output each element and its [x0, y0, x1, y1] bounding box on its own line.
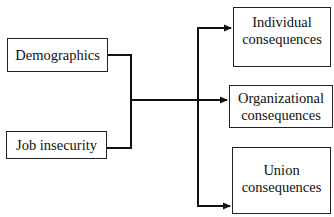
- organizational-label-line2: consequences: [238, 107, 324, 124]
- union-label-line1: Union: [242, 162, 322, 179]
- individual-label-line2: consequences: [242, 31, 322, 48]
- demographics-label: Demographics: [15, 47, 100, 64]
- job-insecurity-box: Job insecurity: [6, 131, 107, 159]
- union-label-line2: consequences: [242, 179, 322, 196]
- individual-label-line1: Individual: [242, 14, 322, 31]
- organizational-consequences-box: Organizational consequences: [229, 85, 333, 128]
- job-insecurity-label: Job insecurity: [16, 137, 97, 154]
- union-consequences-box: Union consequences: [232, 147, 331, 214]
- individual-consequences-box: Individual consequences: [233, 7, 331, 67]
- demographics-connector: [107, 55, 131, 148]
- organizational-label-line1: Organizational: [238, 90, 324, 107]
- demographics-box: Demographics: [7, 38, 108, 72]
